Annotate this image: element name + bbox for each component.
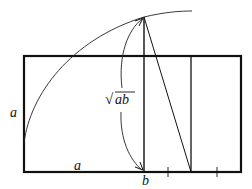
diagonal-line [144, 17, 191, 172]
geometric-mean-diagram: a a b √ ab [0, 0, 252, 189]
label-b: b [142, 173, 149, 188]
label-sqrt-ab: √ ab [105, 91, 135, 107]
label-ab: ab [115, 92, 129, 107]
dimension-arrow-upper [121, 19, 142, 88]
label-bottom-a: a [74, 158, 81, 173]
label-left-side-a: a [10, 105, 17, 120]
dimension-arrow-lower [121, 112, 142, 170]
construction-arc [24, 11, 192, 143]
radical-sign-icon: √ [105, 91, 114, 107]
arrowhead-bottom-icon [135, 162, 143, 170]
